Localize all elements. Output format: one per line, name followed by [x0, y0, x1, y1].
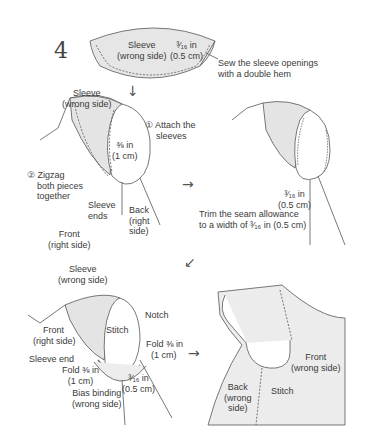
- label-line: Fold ⅜ in: [62, 365, 99, 376]
- label-line: (wrong: [224, 393, 252, 404]
- label-line: (wrong side): [291, 363, 341, 374]
- panel2-front-label: Front (right side): [48, 229, 91, 250]
- label-line: Back: [129, 205, 150, 216]
- panel4-stitch: Stitch: [106, 325, 129, 336]
- panel1-instruction: Sew the sleeve openings with a double he…: [218, 58, 318, 79]
- arrow-down: ↓: [127, 83, 139, 99]
- label-line: ³⁄₁₆ in: [170, 40, 203, 51]
- label-line: ⅜ in: [112, 140, 138, 151]
- label-line: sleeves: [145, 131, 196, 142]
- panel4-sleeve-label: Sleeve (wrong side): [58, 264, 108, 285]
- label-line: (1 cm): [146, 350, 183, 361]
- panel2-attach-sleeves: ① Attach the sleeves: [145, 120, 196, 141]
- label-line: ① Attach the: [145, 120, 196, 131]
- label-line: to a width of ³⁄₁₆ in (0.5 cm): [199, 220, 306, 231]
- label-line: (right side): [48, 240, 91, 251]
- panel4-bias-binding: Bias binding (wrong side): [72, 388, 122, 409]
- label-line: Front: [291, 352, 341, 363]
- label-line: Sleeve: [88, 200, 116, 211]
- label-line: (right side): [33, 336, 76, 347]
- panel3-trim-width: ³⁄₁₆ in (0.5 cm): [278, 189, 311, 210]
- arrow-right-2: →: [188, 345, 200, 361]
- label-line: (0.5 cm): [170, 51, 203, 62]
- panel2-sleeve-label: Sleeve (wrong side): [62, 88, 112, 109]
- arrow-down-left: ↙: [184, 254, 196, 270]
- label-line: Front: [48, 229, 91, 240]
- label-line: (1 cm): [62, 376, 99, 387]
- label-line: (right: [129, 216, 150, 227]
- label-line: both pieces: [27, 181, 83, 192]
- label-line: Sleeve: [58, 264, 108, 275]
- label-line: with a double hem: [218, 69, 318, 80]
- panel5-stitch: Stitch: [271, 386, 294, 397]
- panel2-back-label: Back (right side): [129, 205, 150, 237]
- panel4-front-label: Front (right side): [33, 325, 76, 346]
- panel2-seam-width: ⅜ in (1 cm): [112, 140, 138, 161]
- panel3-instruction: Trim the seam allowance to a width of ³⁄…: [199, 209, 306, 230]
- panel4-width: ³⁄₁₆ in (0.5 cm): [122, 373, 155, 394]
- label-line: ³⁄₁₆ in: [122, 373, 155, 384]
- label-line: Fold ⅜ in: [146, 339, 183, 350]
- label-line: side): [224, 403, 252, 414]
- arrow-right-1: →: [182, 176, 194, 192]
- label-line: (1 cm): [112, 151, 138, 162]
- label-line: (wrong side): [72, 399, 122, 410]
- label-line: together: [27, 191, 83, 202]
- label-line: Sleeve: [62, 88, 112, 99]
- label-line: Trim the seam allowance: [199, 209, 306, 220]
- panel2-sleeve-ends: Sleeve ends: [88, 200, 116, 221]
- label-line: ends: [88, 211, 116, 222]
- step-number: 4: [54, 38, 68, 63]
- panel5-front-label: Front (wrong side): [291, 352, 341, 373]
- label-line: (wrong side): [58, 275, 108, 286]
- label-line: (0.5 cm): [122, 384, 155, 395]
- label-line: Sleeve: [117, 40, 167, 51]
- panel4-notch: Notch: [145, 310, 169, 321]
- panel4-fold-right: Fold ⅜ in (1 cm): [146, 339, 183, 360]
- label-line: Bias binding: [72, 388, 122, 399]
- label-line: ³⁄₁₆ in: [278, 189, 311, 200]
- panel2-zigzag: ② Zigzag both pieces together: [27, 170, 83, 202]
- label-line: Sew the sleeve openings: [218, 58, 318, 69]
- label-line: (wrong side): [117, 51, 167, 62]
- panel4-sleeve-end: Sleeve end: [29, 354, 74, 365]
- label-line: (wrong side): [62, 99, 112, 110]
- label-line: Front: [33, 325, 76, 336]
- panel1-hem-width: ³⁄₁₆ in (0.5 cm): [170, 40, 203, 61]
- label-line: side): [129, 226, 150, 237]
- panel4-fold-left: Fold ⅜ in (1 cm): [62, 365, 99, 386]
- label-line: Back: [224, 382, 252, 393]
- panel1-sleeve-label: Sleeve (wrong side): [117, 40, 167, 61]
- panel5-back-label: Back (wrong side): [224, 382, 252, 414]
- label-line: ② Zigzag: [27, 170, 83, 181]
